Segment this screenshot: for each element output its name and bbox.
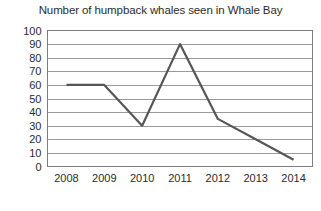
y-axis-tick-label: 40 (29, 106, 41, 118)
gridlines-group (48, 45, 313, 154)
line-chart-figure: Number of humpback whales seen in Whale … (0, 0, 321, 211)
x-axis-tick-label: 2009 (92, 172, 116, 184)
y-axis-tick-label: 60 (29, 79, 41, 91)
x-axis-tick-labels: 2008200920102011201220132014 (54, 172, 306, 184)
x-axis-tick-label: 2012 (206, 172, 230, 184)
y-axis-tick-label: 20 (29, 133, 41, 145)
x-axis-tick-label: 2011 (168, 172, 192, 184)
data-series-line (66, 44, 293, 160)
y-axis-tick-labels: 0102030405060708090100 (23, 25, 41, 173)
y-axis-tick-label: 80 (29, 52, 41, 64)
x-axis-tick-label: 2013 (243, 172, 267, 184)
y-axis-tick-label: 90 (29, 38, 41, 50)
x-axis-tick-label: 2010 (130, 172, 154, 184)
y-axis-tick-label: 100 (23, 25, 41, 37)
plot-frame (48, 31, 313, 167)
y-axis-tick-label: 70 (29, 65, 41, 77)
y-axis-tick-label: 10 (29, 147, 41, 159)
x-axis-tick-label: 2014 (281, 172, 305, 184)
chart-plot-area: 0102030405060708090100 20082009201020112… (0, 0, 321, 211)
y-axis-tick-label: 30 (29, 120, 41, 132)
y-axis-tick-label: 50 (29, 93, 41, 105)
y-axis-tick-label: 0 (35, 161, 41, 173)
x-axis-tick-label: 2008 (54, 172, 78, 184)
